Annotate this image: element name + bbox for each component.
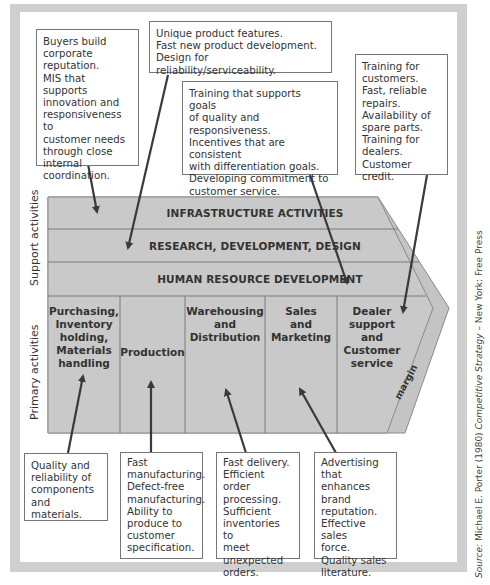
band-infrastructure: INFRASTRUCTURE ACTIVITIES <box>130 207 380 219</box>
note-rnd: Unique product features. Fast new produc… <box>149 21 332 73</box>
note-dealer-support: Training for customers. Fast, reliable r… <box>355 54 448 175</box>
source-prefix: Source: <box>474 544 484 578</box>
note-sales-marketing: Advertising that enhances brand reputati… <box>314 452 397 559</box>
source-credit: Source: Michael E. Porter (1980) Competi… <box>474 230 484 578</box>
col-sales-marketing: Sales and Marketing <box>265 305 337 344</box>
primary-activities-label: Primary activities <box>28 324 41 420</box>
col-production: Production <box>120 346 185 359</box>
col-dealer-support: Dealer support and Customer service <box>337 305 407 370</box>
note-warehousing: Fast delivery. Efficient order processin… <box>216 452 300 559</box>
note-production: Fast manufacturing. Defect-free manufact… <box>120 452 203 559</box>
note-purchasing: Quality and reliability of components an… <box>24 453 108 521</box>
source-author: Michael E. Porter (1980) <box>474 430 484 544</box>
col-warehousing: Warehousing and Distribution <box>185 305 265 344</box>
support-activities-label: Support activities <box>28 189 41 286</box>
source-book: Competitive Strategy <box>474 333 484 429</box>
note-infrastructure: Buyers build corporate reputation. MIS t… <box>36 29 139 166</box>
note-human-resource: Training that supports goals of quality … <box>182 81 338 175</box>
source-publisher: – New York: Free Press <box>474 230 484 333</box>
band-research-development-design: RESEARCH, DEVELOPMENT, DESIGN <box>130 240 380 252</box>
col-purchasing: Purchasing, Inventory holding, Materials… <box>48 305 120 370</box>
band-human-resource: HUMAN RESOURCE DEVELOPMENT <box>130 273 390 285</box>
